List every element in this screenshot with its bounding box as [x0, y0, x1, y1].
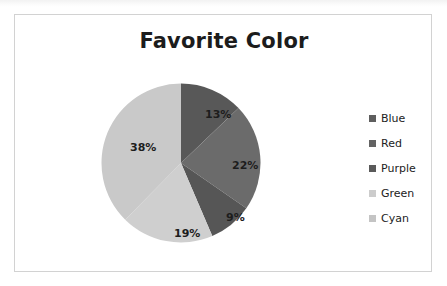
legend-item-red[interactable]: Red — [369, 131, 441, 156]
pie-label-green: 19% — [174, 227, 200, 240]
legend-item-blue[interactable]: Blue — [369, 106, 441, 131]
legend-label-red: Red — [381, 138, 402, 149]
screenshot-root: Favorite Color 13% 22% 9% 19% 38% — [0, 0, 447, 286]
legend-swatch-icon-cyan — [369, 215, 376, 222]
plot-area: 13% 22% 9% 19% 38% Blue Red Purple — [15, 15, 433, 271]
legend-item-purple[interactable]: Purple — [369, 156, 441, 181]
chart-frame: Favorite Color 13% 22% 9% 19% 38% — [14, 14, 432, 272]
pie-label-purple: 9% — [226, 211, 245, 224]
legend-swatch-icon-blue — [369, 115, 376, 122]
legend-swatch-icon-red — [369, 140, 376, 147]
pie-label-cyan: 38% — [130, 141, 156, 154]
legend-label-purple: Purple — [381, 163, 416, 174]
pie-label-blue: 13% — [205, 108, 231, 121]
legend-swatch-icon-green — [369, 190, 376, 197]
legend-item-green[interactable]: Green — [369, 181, 441, 206]
legend-label-green: Green — [381, 188, 414, 199]
scan-edge-artifact — [0, 0, 447, 7]
legend-label-cyan: Cyan — [381, 213, 409, 224]
chart-legend: Blue Red Purple Green Cyan — [369, 106, 441, 231]
pie-label-red: 22% — [232, 159, 258, 172]
legend-label-blue: Blue — [381, 113, 405, 124]
legend-swatch-icon-purple — [369, 165, 376, 172]
legend-item-cyan[interactable]: Cyan — [369, 206, 441, 231]
